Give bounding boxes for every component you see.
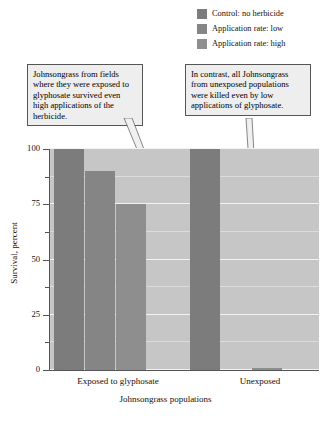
annotation-callout-right: In contrast, all Johnsongrass from unexp… [185,64,311,116]
legend-item-low: Application rate: low [197,22,329,35]
plot-area [50,149,319,370]
legend-item-high: Application rate: high [197,37,329,50]
y-tick-minor [45,287,49,288]
bar [190,149,220,370]
y-tick-label: 75 [14,198,40,208]
x-category-label-0: Exposed to glyphosate [48,376,188,386]
legend-label-low: Application rate: low [212,24,283,34]
y-tick-minor [45,232,49,233]
legend: Control: no herbicide Application rate: … [197,7,329,52]
gridline [50,148,319,149]
legend-swatch-high [197,39,207,49]
legend-label-control: Control: no herbicide [212,9,284,19]
x-axis-title: Johnsongrass populations [0,394,331,404]
bar [54,149,84,370]
y-tick-label: 25 [14,309,40,319]
bar [116,204,146,370]
legend-label-high: Application rate: high [212,39,286,49]
y-tick-major [43,204,49,205]
y-tick-label: 0 [14,364,40,374]
y-tick-label: 100 [14,143,40,153]
y-axis-line [49,149,50,371]
y-tick-major [43,260,49,261]
y-tick-minor [45,342,49,343]
y-tick-minor [45,177,49,178]
x-category-label-1: Unexposed [200,376,320,386]
legend-swatch-control [197,9,207,19]
y-tick-major [43,149,49,150]
y-tick-label: 50 [14,254,40,264]
annotation-callout-left: Johnsongrass from fields where they were… [27,64,143,126]
bar [85,171,115,370]
y-tick-major [43,315,49,316]
legend-swatch-low [197,24,207,34]
y-tick-major [43,370,49,371]
legend-item-control: Control: no herbicide [197,7,329,20]
x-axis-line [49,370,319,371]
